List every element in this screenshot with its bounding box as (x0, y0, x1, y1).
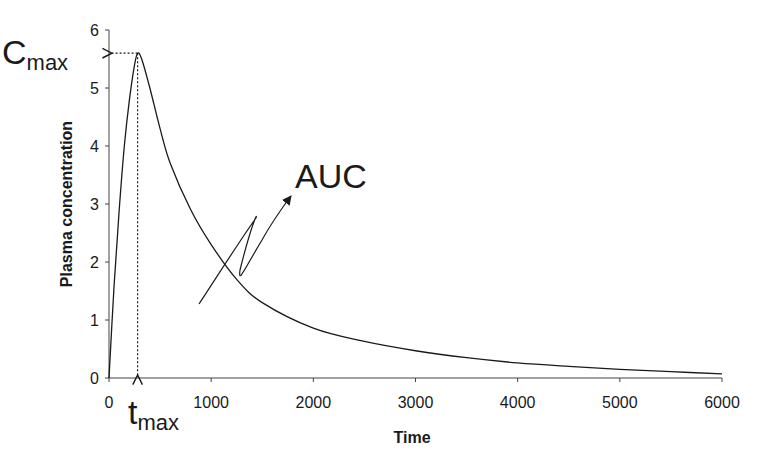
x-tick-label: 0 (105, 394, 114, 411)
x-tick-label: 3000 (398, 394, 434, 411)
y-tick-label: 1 (90, 312, 99, 329)
y-tick-label: 3 (90, 196, 99, 213)
auc-label: AUC (295, 157, 367, 195)
y-tick-label: 6 (90, 22, 99, 39)
x-tick-label: 1000 (193, 394, 229, 411)
y-axis: 0123456 (90, 22, 109, 387)
y-tick-label: 5 (90, 80, 99, 97)
cmax-label: Cmax (2, 33, 68, 75)
y-tick-label: 4 (90, 138, 99, 155)
x-tick-label: 6000 (704, 394, 740, 411)
y-tick-label: 2 (90, 254, 99, 271)
x-axis-title: Time (393, 429, 430, 446)
y-axis-title: Plasma concentration (58, 121, 75, 287)
y-tick-label: 0 (90, 370, 99, 387)
concentration-curve (109, 53, 722, 378)
pharmacokinetic-chart: 0123456 0100020003000400050006000 Plasma… (0, 0, 774, 469)
tmax-label: tmax (128, 393, 179, 435)
x-tick-label: 2000 (296, 394, 332, 411)
x-axis: 0100020003000400050006000 (105, 378, 740, 411)
x-tick-label: 5000 (602, 394, 638, 411)
x-tick-label: 4000 (500, 394, 536, 411)
